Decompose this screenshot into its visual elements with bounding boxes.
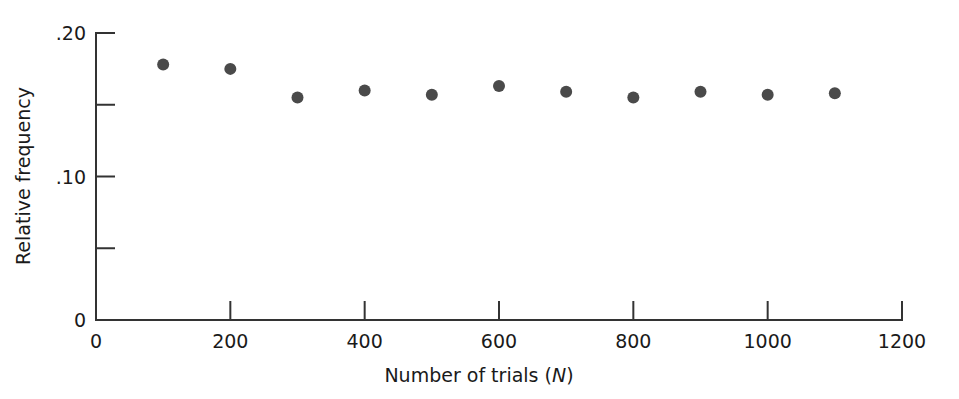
- y-tick-label: 0: [74, 309, 86, 331]
- data-point: [493, 80, 505, 92]
- x-tick-label: 800: [615, 330, 651, 352]
- x-tick-label: 400: [347, 330, 383, 352]
- data-point: [426, 89, 438, 101]
- data-point: [359, 84, 371, 96]
- data-point: [224, 63, 236, 75]
- y-tick-label: .10: [56, 166, 86, 188]
- x-tick-label: 1000: [743, 330, 791, 352]
- x-axis-label: Number of trials (N): [384, 364, 573, 386]
- data-point: [292, 92, 304, 104]
- y-tick-label: .20: [56, 22, 86, 44]
- data-point: [627, 92, 639, 104]
- x-tick-label: 600: [481, 330, 517, 352]
- data-point: [695, 86, 707, 98]
- scatter-plot: 0.10.20 020040060080010001200 Number of …: [0, 0, 959, 399]
- data-point: [762, 89, 774, 101]
- x-tick-label: 200: [212, 330, 248, 352]
- x-tick-label: 1200: [878, 330, 926, 352]
- data-point: [560, 86, 572, 98]
- x-tick-label: 0: [90, 330, 102, 352]
- chart-figure: 0.10.20 020040060080010001200 Number of …: [0, 0, 959, 399]
- y-axis-label: Relative frequency: [12, 87, 34, 265]
- chart-background: [0, 0, 959, 399]
- data-point: [157, 59, 169, 71]
- data-point: [829, 87, 841, 99]
